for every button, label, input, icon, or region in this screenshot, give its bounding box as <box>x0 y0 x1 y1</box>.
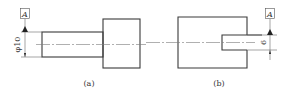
caption-b: (b) <box>213 79 224 88</box>
figure-b: A 6 (b) <box>146 9 277 89</box>
dimension-arrow-a <box>24 53 26 57</box>
dimension-text-a: φ10 <box>13 37 22 53</box>
datum-label-a: A <box>21 10 28 19</box>
drawing-canvas: A φ10 (a) A 6 (b) <box>0 0 289 100</box>
caption-a: (a) <box>83 79 94 88</box>
datum-triangle-a <box>22 26 28 32</box>
shaft-head <box>103 19 140 68</box>
dimension-arrow-b <box>269 50 271 54</box>
datum-label-b: A <box>266 10 273 19</box>
datum-triangle-b <box>267 29 273 35</box>
dimension-text-b: 6 <box>259 40 268 45</box>
figure-a: A φ10 (a) <box>13 9 146 89</box>
